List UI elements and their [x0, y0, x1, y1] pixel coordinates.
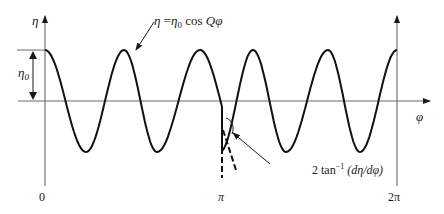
amplitude-arrow-up-icon	[29, 51, 37, 59]
x-tick-label-pi: π	[218, 191, 224, 203]
x-tick-label-0: 0	[39, 191, 45, 203]
angle-pointer-arrow	[233, 133, 270, 164]
amplitude-arrow-down-icon	[29, 92, 37, 100]
equation-pointer-arrow	[136, 22, 154, 50]
amplitude-label: η0	[18, 66, 29, 82]
wave-diagram	[0, 0, 444, 214]
x-tick-label-2pi: 2π	[388, 191, 400, 203]
angle-annotation-label: 2 tan−1 (dη/dφ)	[312, 163, 383, 176]
curve-equation-label: η =η0 cos Qφ	[154, 14, 222, 30]
phi-axis-label: φ	[416, 110, 423, 123]
eta-axis-label: η	[32, 14, 38, 27]
